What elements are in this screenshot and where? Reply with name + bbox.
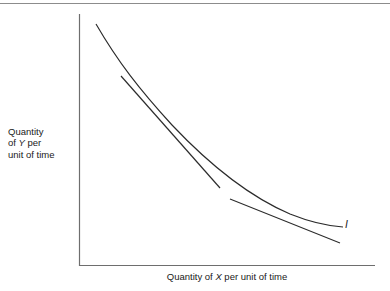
- y-axis-label-line2-suffix: per: [25, 137, 41, 148]
- indifference-curve-figure: Quantityof Y perunit of time Quantity of…: [0, 0, 390, 291]
- x-axis-label-prefix: Quantity of: [167, 271, 216, 282]
- x-axis-label-suffix: per unit of time: [222, 271, 287, 282]
- y-axis-label-line1: Quantity: [8, 126, 43, 137]
- axes-group: [79, 14, 375, 266]
- indifference-curve-label: I: [345, 218, 348, 230]
- indifference-curve-I: [96, 24, 343, 227]
- x-axis-label: Quantity of X per unit of time: [79, 271, 375, 283]
- tangent-line-2: [230, 199, 340, 243]
- curves-group: [96, 24, 343, 243]
- y-axis-label-line2-prefix: of: [8, 137, 19, 148]
- y-axis-label: Quantityof Y perunit of time: [8, 126, 76, 160]
- tangent-line-1: [121, 76, 220, 188]
- y-axis-label-line3: unit of time: [8, 149, 54, 160]
